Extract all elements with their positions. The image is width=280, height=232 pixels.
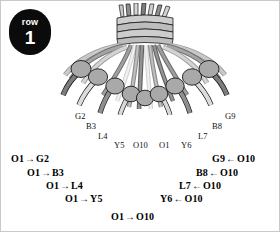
knot-bead bbox=[199, 61, 219, 78]
instruction-g9-o10: G9←O10 bbox=[212, 153, 255, 164]
instruction-from: O1 bbox=[46, 180, 59, 191]
instruction-from: Y6 bbox=[160, 193, 172, 204]
arrow-icon-right: → bbox=[59, 180, 71, 191]
knot-bead bbox=[150, 86, 168, 102]
instruction-o1-y5: O1→Y5 bbox=[65, 193, 103, 204]
instruction-from: B8 bbox=[196, 167, 208, 178]
instruction-o1-o10: O1→O10 bbox=[111, 211, 154, 222]
instruction-to: O10 bbox=[203, 180, 221, 191]
arrow-icon-left: ← bbox=[208, 167, 220, 178]
row-badge-number: 1 bbox=[25, 28, 36, 47]
thread-label-l7: L7 bbox=[198, 131, 207, 141]
instruction-from: O1 bbox=[27, 167, 40, 178]
instruction-o1-g2: O1→G2 bbox=[11, 153, 49, 164]
thread-label-g2: G2 bbox=[75, 111, 85, 121]
knot-bead bbox=[182, 69, 201, 85]
bracelet-knot-illustration bbox=[59, 3, 231, 115]
arrow-icon-left: ← bbox=[172, 193, 184, 204]
row-number-badge: row 1 bbox=[9, 9, 51, 55]
thread-label-y6: Y6 bbox=[181, 140, 191, 150]
arrow-icon-left: ← bbox=[225, 153, 237, 164]
instruction-to: O10 bbox=[237, 153, 255, 164]
arrow-icon-right: → bbox=[78, 193, 90, 204]
instruction-o1-l4: O1→L4 bbox=[46, 180, 83, 191]
instruction-to: B3 bbox=[52, 167, 64, 178]
thread-label-y5: Y5 bbox=[114, 140, 124, 150]
thread-label-l4: L4 bbox=[98, 131, 107, 141]
instruction-to: Y5 bbox=[90, 193, 102, 204]
instruction-from: G9 bbox=[212, 153, 225, 164]
instruction-b8-o10: B8←O10 bbox=[196, 167, 238, 178]
instruction-from: O1 bbox=[65, 193, 78, 204]
instruction-to: O10 bbox=[136, 211, 154, 222]
thread-label-o1: O1 bbox=[159, 140, 169, 150]
instruction-l7-o10: L7←O10 bbox=[179, 180, 221, 191]
instruction-from: O1 bbox=[111, 211, 124, 222]
instruction-from: L7 bbox=[179, 180, 191, 191]
knot-bead bbox=[71, 61, 91, 78]
arrow-icon-right: → bbox=[40, 167, 52, 178]
knot-bead bbox=[88, 69, 107, 85]
knot-bead bbox=[166, 78, 184, 94]
instruction-to: G2 bbox=[36, 153, 49, 164]
instruction-o1-b3: O1→B3 bbox=[27, 167, 64, 178]
thread-label-g9: G9 bbox=[225, 111, 235, 121]
instruction-to: O10 bbox=[185, 193, 203, 204]
arrow-icon-left: ← bbox=[191, 180, 203, 191]
instruction-y6-o10: Y6←O10 bbox=[160, 193, 203, 204]
instruction-to: O10 bbox=[220, 167, 238, 178]
arrow-icon-right: → bbox=[24, 153, 36, 164]
thread-label-o10: O10 bbox=[133, 140, 148, 150]
thread-label-b8: B8 bbox=[212, 121, 222, 131]
knot-bead bbox=[106, 78, 124, 94]
bracelet-row-diagram-page: row 1 bbox=[0, 0, 280, 232]
thread-label-b3: B3 bbox=[86, 121, 96, 131]
instruction-from: O1 bbox=[11, 153, 24, 164]
arrow-icon-right: → bbox=[124, 211, 136, 222]
wrapped-bundle bbox=[117, 15, 173, 45]
row-badge-word: row bbox=[22, 18, 39, 27]
instruction-to: L4 bbox=[71, 180, 83, 191]
